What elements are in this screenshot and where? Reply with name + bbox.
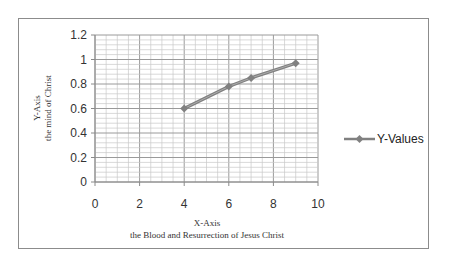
x-axis-sublabel: the Blood and Resurrection of Jesus Chri… <box>130 230 284 240</box>
diamond-marker-icon <box>247 74 255 82</box>
y-tick-label: 1.2 <box>70 28 87 42</box>
gridlines <box>95 35 318 182</box>
x-tick-label: 2 <box>136 197 143 211</box>
y-tick-label: 0.6 <box>70 102 87 116</box>
legend-label: Y-Values <box>377 132 424 146</box>
x-tick-label: 10 <box>311 197 325 211</box>
legend: Y-Values <box>344 132 424 146</box>
scatter-chart: 00.20.40.60.811.20246810 Y-Axis the mind… <box>0 0 450 278</box>
x-axis-title: X-Axis the Blood and Resurrection of Jes… <box>130 218 284 240</box>
y-tick-label: 0.8 <box>70 77 87 91</box>
y-axis-label: Y-Axis <box>32 95 42 121</box>
tick-labels: 00.20.40.60.811.20246810 <box>70 28 325 211</box>
legend-diamond-marker-icon <box>356 135 364 143</box>
x-tick-label: 8 <box>270 197 277 211</box>
y-axis-title: Y-Axis the mind of Christ <box>32 75 53 141</box>
x-tick-label: 4 <box>181 197 188 211</box>
axes <box>91 35 318 186</box>
y-tick-label: 1 <box>80 53 87 67</box>
x-axis-label: X-Axis <box>194 218 221 228</box>
y-tick-label: 0 <box>80 175 87 189</box>
x-tick-label: 6 <box>225 197 232 211</box>
y-axis-sublabel: the mind of Christ <box>43 75 53 141</box>
y-tick-label: 0.4 <box>70 126 87 140</box>
x-tick-label: 0 <box>92 197 99 211</box>
diamond-marker-icon <box>292 59 300 67</box>
y-tick-label: 0.2 <box>70 151 87 165</box>
